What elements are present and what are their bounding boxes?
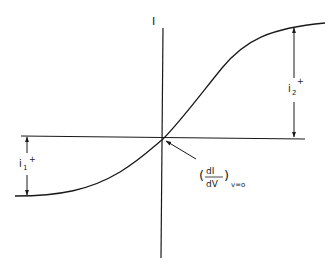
slope-label: ( dI dV ) v=o bbox=[199, 166, 245, 189]
svg-text:): ) bbox=[224, 168, 229, 183]
svg-text:dI: dI bbox=[206, 166, 214, 176]
svg-text:+: + bbox=[29, 155, 36, 164]
axis-y-label: I bbox=[152, 15, 155, 28]
svg-text:dV: dV bbox=[206, 179, 219, 189]
iv-characteristic-diagram: I i 2 + i 1 + ( dI dV ) v=o bbox=[0, 0, 334, 272]
svg-text:v=o: v=o bbox=[231, 181, 245, 189]
svg-text:i: i bbox=[288, 83, 291, 94]
iv-curve bbox=[15, 23, 325, 196]
vertical-axis bbox=[161, 28, 163, 258]
slope-pointer-arrow bbox=[166, 141, 196, 159]
svg-text:(: ( bbox=[199, 168, 204, 183]
svg-text:+: + bbox=[297, 77, 304, 86]
svg-text:i: i bbox=[19, 158, 22, 169]
svg-text:2: 2 bbox=[292, 89, 296, 97]
svg-text:1: 1 bbox=[23, 164, 27, 172]
